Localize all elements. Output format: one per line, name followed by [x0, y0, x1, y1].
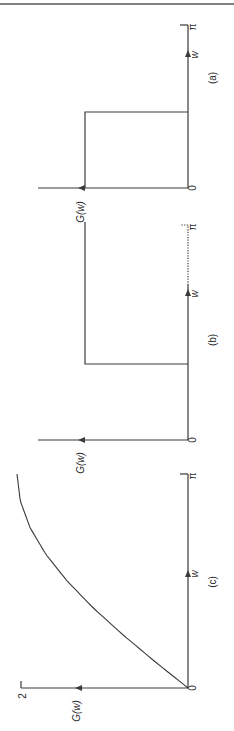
g-axis-arrow-icon — [75, 685, 82, 691]
figure-page: 0 π w G(w) (a) 0 π w G(w) (b) 0 π 2 w G(… — [0, 0, 234, 731]
w-axis-label: w — [189, 570, 200, 578]
g-axis-label: G(w) — [75, 452, 86, 474]
w-axis-label: w — [189, 51, 200, 59]
w-axis-label: w — [189, 290, 200, 298]
zero-label: 0 — [187, 437, 198, 443]
pi-label: π — [187, 223, 198, 230]
panel-label: (a) — [207, 72, 218, 84]
response-line — [85, 222, 188, 364]
panel-label: (b) — [207, 334, 218, 346]
y-tick-label: 2 — [17, 693, 28, 699]
panel-b: 0 π w G(w) (b) — [38, 222, 218, 474]
g-axis-arrow-icon — [78, 437, 85, 443]
panel-label: (c) — [207, 576, 218, 588]
pi-label: π — [187, 472, 198, 479]
g-axis-label: G(w) — [75, 201, 86, 223]
response-curve — [17, 474, 188, 688]
zero-label: 0 — [187, 685, 198, 691]
pi-label: π — [187, 23, 198, 30]
panel-c: 0 π 2 w G(w) (c) — [17, 472, 218, 721]
zero-label: 0 — [187, 185, 198, 191]
g-axis-label: G(w) — [71, 700, 82, 722]
g-axis-arrow-icon — [78, 185, 85, 191]
response-line — [85, 112, 188, 188]
panel-a: 0 π w G(w) (a) — [38, 23, 218, 222]
